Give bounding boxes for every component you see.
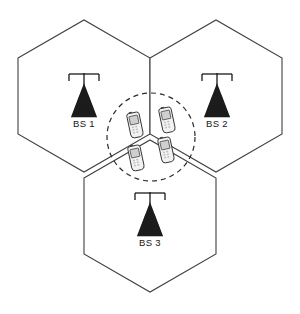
base-station-1-label: BS 1: [73, 118, 95, 129]
base-station-3-label: BS 3: [139, 237, 161, 248]
cell-boundaries-group: [18, 20, 282, 292]
diagram-canvas: BS 1 BS 2 BS 3: [0, 0, 300, 314]
base-station-2-label: BS 2: [206, 118, 228, 129]
cellular-network-diagram: BS 1 BS 2 BS 3: [0, 0, 300, 314]
